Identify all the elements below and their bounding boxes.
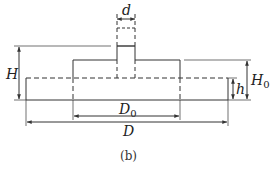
label-D0-main: D — [119, 101, 130, 117]
label-h: h — [236, 82, 245, 96]
label-D0: D0 — [119, 102, 137, 119]
label-D0-sub: 0 — [130, 108, 136, 119]
diagram-canvas: d H H0 h D0 D (b) — [0, 0, 276, 174]
label-H0: H0 — [251, 73, 270, 90]
label-H0-main: H — [251, 72, 263, 88]
diagram-drawing — [0, 0, 276, 174]
stem — [117, 14, 135, 78]
label-H: H — [6, 67, 18, 81]
label-d: d — [122, 3, 131, 17]
label-H0-sub: 0 — [263, 79, 269, 90]
dimension-H — [14, 46, 111, 100]
figure-caption: (b) — [120, 150, 137, 162]
base-plate — [26, 78, 228, 100]
middle-boss — [73, 60, 180, 100]
label-D: D — [123, 124, 134, 138]
